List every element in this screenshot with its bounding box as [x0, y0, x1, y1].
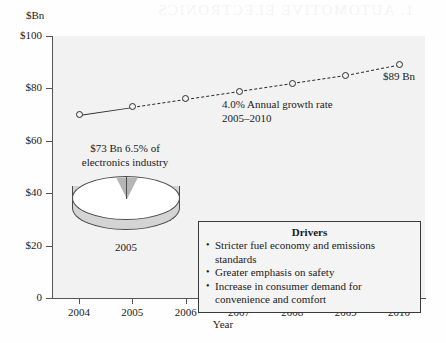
endpoint-value-label: $89 Bn: [383, 70, 415, 82]
data-point-marker: [236, 88, 243, 95]
data-point-marker: [289, 80, 296, 87]
data-point-marker: [342, 72, 349, 79]
y-axis-tick: $100: [46, 36, 53, 37]
y-axis-line: [52, 36, 53, 299]
pie-year-label: 2005: [72, 241, 180, 253]
y-axis-tick-label: $80: [26, 81, 43, 93]
y-axis-tick: $60: [46, 141, 53, 142]
page-bleed-through-text: 1. AUTOMOTIVE ELECTRONICS: [140, 2, 430, 24]
y-axis-tick-label: $20: [26, 239, 43, 251]
y-axis-tick: $40: [46, 193, 53, 194]
y-axis-tick-label: $60: [26, 134, 43, 146]
drivers-list-item: Increase in consumer demand for convenie…: [205, 280, 414, 307]
drivers-list-item: Greater emphasis on safety: [205, 266, 414, 280]
pie-caption-line2: electronics industry: [57, 155, 193, 169]
x-axis-tick: [186, 298, 187, 304]
pie-caption: $73 Bn 6.5% of electronics industry: [57, 141, 193, 169]
y-axis-tick-label: $40: [26, 186, 43, 198]
x-axis-tick-label: 2005: [102, 306, 162, 318]
drivers-list-item: Stricter fuel economy and emissions stan…: [205, 239, 414, 266]
growth-rate-annotation: 4.0% Annual growth rate 2005–2010: [222, 97, 333, 125]
chart-figure: 1. AUTOMOTIVE ELECTRONICS $Bn 0$20$40$60…: [0, 0, 446, 343]
y-axis-tick: $20: [46, 246, 53, 247]
y-axis-tick-label: $100: [20, 29, 42, 41]
pie-caption-line1: $73 Bn 6.5% of: [57, 141, 193, 155]
growth-rate-line2: 2005–2010: [222, 111, 333, 125]
x-axis-title: Year: [0, 318, 446, 330]
y-axis-tick: 0: [46, 298, 53, 299]
x-axis-tick: [132, 298, 133, 304]
growth-rate-line1: 4.0% Annual growth rate: [222, 97, 333, 111]
x-axis-tick: [79, 298, 80, 304]
drivers-title: Drivers: [205, 225, 414, 239]
drivers-callout-box: Drivers Stricter fuel economy and emissi…: [198, 221, 421, 313]
y-axis-tick: $80: [46, 88, 53, 89]
x-axis-tick-label: 2004: [49, 306, 109, 318]
pie-slice-edge: [126, 177, 127, 199]
data-point-marker: [396, 61, 403, 68]
y-axis-title: $Bn: [26, 9, 44, 21]
pie-top-face: [72, 176, 180, 220]
inset-pie-chart: [72, 176, 180, 240]
data-point-marker: [76, 111, 83, 118]
drivers-list: Stricter fuel economy and emissions stan…: [205, 239, 414, 307]
y-axis-tick-label: 0: [37, 291, 43, 303]
